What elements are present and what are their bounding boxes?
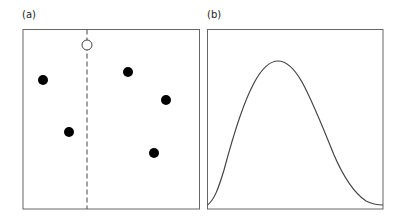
filled-point bbox=[38, 75, 48, 85]
filled-point bbox=[123, 67, 133, 77]
panel-a bbox=[23, 30, 200, 210]
figure-canvas bbox=[0, 0, 401, 221]
panel-b bbox=[208, 30, 384, 210]
filled-point bbox=[64, 127, 74, 137]
bell-curve bbox=[208, 61, 384, 205]
filled-point bbox=[161, 95, 171, 105]
filled-point bbox=[149, 148, 159, 158]
panel-b-frame bbox=[208, 30, 384, 210]
open-point bbox=[82, 40, 92, 50]
panel-a-frame bbox=[23, 30, 200, 210]
filled-points bbox=[38, 67, 171, 158]
